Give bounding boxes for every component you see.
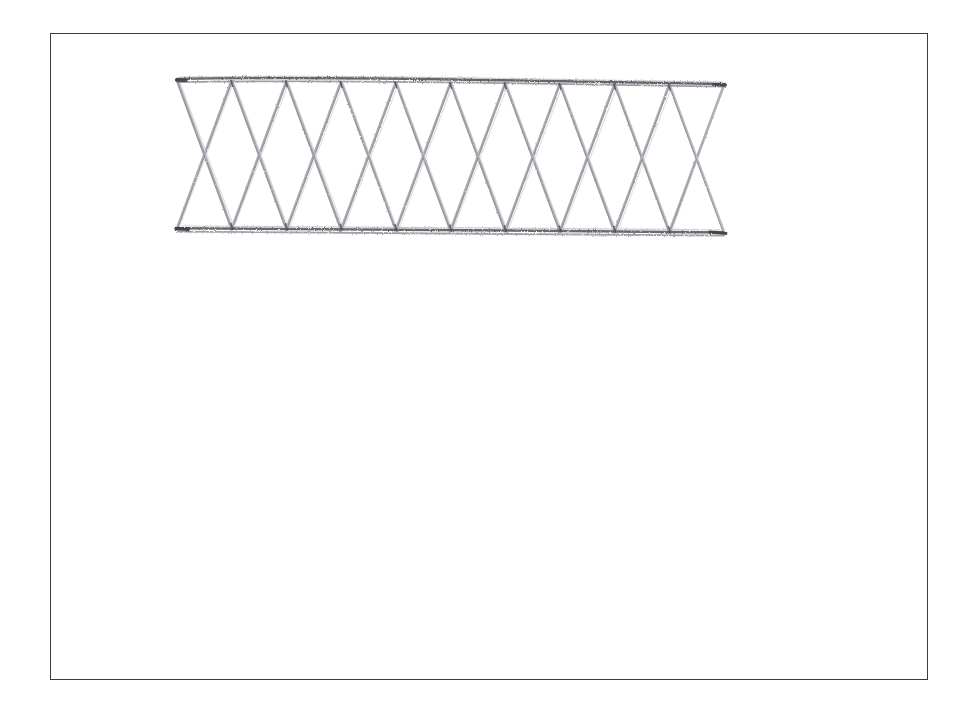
screenshot-canvas: Lattice truss elevation [0,0,978,715]
drawing-border [50,33,928,680]
